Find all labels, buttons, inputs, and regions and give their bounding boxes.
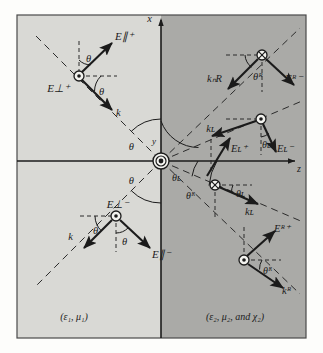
figure-canvas: x z y (ε₁, μ₁) (ε₂, μ₂, and χ₂) E∥⁺ E⊥⁺ …: [0, 0, 323, 353]
lr-o-circle-dot-center: [242, 258, 246, 262]
ur-o-kR-label: kₙR: [207, 73, 223, 84]
ur-o-theta-R-label: θᴿ: [253, 71, 263, 82]
lr-o-theta-R-label: θᴿ: [263, 265, 272, 276]
z-axis-label: z: [296, 163, 301, 174]
ur-i-E-L-plus-label: Eʟ⁺: [230, 143, 249, 154]
ll-E-parallel-minus-label: E∥⁻: [151, 248, 172, 261]
ll-theta-left-label: θ: [93, 225, 98, 236]
ur-i-kL-label: kʟ: [206, 123, 215, 134]
ul-E-perp-plus-label: E⊥⁺: [46, 82, 71, 94]
lr-i-theta-L-label: θʟ: [236, 188, 245, 199]
y-origin-label: y: [151, 136, 156, 146]
medium-1-label: (ε₁, μ₁): [60, 311, 88, 323]
ur-i-circle-dot-center: [259, 117, 263, 121]
ur-i-E-L-minus-label: Eʟ⁻: [276, 143, 295, 154]
ll-k-label: k: [68, 231, 73, 242]
lr-o-E-R-plus-label: Eᴿ⁺: [273, 223, 292, 234]
origin-theta-L-label: θʟ: [172, 172, 181, 183]
lr-o-kR-label: kᴿ: [282, 285, 292, 296]
origin-theta-incident-label: θ: [129, 141, 134, 152]
ul-k-label: k: [116, 107, 121, 118]
ul-E-parallel-plus-label: E∥⁺: [114, 30, 135, 43]
lr-i-kL-label: kʟ: [245, 206, 254, 217]
ray-diagram-svg: x z y (ε₁, μ₁) (ε₂, μ₂, and χ₂) E∥⁺ E⊥⁺ …: [0, 0, 323, 353]
ul-theta-upper-label: θ: [86, 53, 91, 64]
origin-theta-reflected-label: θ: [129, 175, 134, 186]
medium-2-label: (ε₂, μ₂, and χ₂): [206, 311, 265, 323]
ur-i-theta-L-label: θʟ: [262, 139, 271, 150]
ll-E-perp-minus-label: E⊥⁻: [106, 198, 131, 210]
ul-theta-lower-label: θ: [99, 86, 104, 97]
ll-circle-dot-center: [114, 214, 118, 218]
x-axis-label: x: [146, 13, 152, 24]
origin-theta-R-label: θᴿ: [186, 190, 195, 201]
ll-theta-right-label: θ: [122, 236, 127, 247]
ur-o-E-R-minus-label: Eᴿ⁻: [284, 72, 304, 84]
origin-dot: [159, 159, 164, 164]
ul-circle-dot-center: [77, 74, 81, 78]
